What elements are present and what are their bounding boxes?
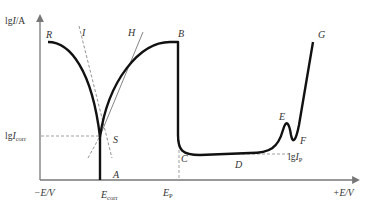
tangent-H-dashed xyxy=(88,136,100,158)
point-I: I xyxy=(81,27,86,38)
cathodic-curve xyxy=(48,42,100,137)
point-S: S xyxy=(113,134,118,145)
tangent-I xyxy=(79,26,112,158)
point-G: G xyxy=(318,29,325,40)
point-H: H xyxy=(127,27,136,38)
x-axis-pos-label: +E/V xyxy=(333,188,355,198)
point-F: F xyxy=(299,135,307,146)
y-axis-label: lgI/A xyxy=(5,15,25,26)
Ecorr-tick-label: Ecorr xyxy=(100,189,118,201)
point-D: D xyxy=(234,159,243,170)
Ep-tick-label: EP xyxy=(162,187,173,199)
lgIp-label: lgIP xyxy=(288,151,303,163)
polarization-diagram: lgI/A R I H B S A C D E F G lgIcorr lgIP… xyxy=(0,0,374,210)
x-axis-neg-label: −E/V xyxy=(34,188,56,198)
point-C: C xyxy=(181,153,188,164)
point-A: A xyxy=(112,169,120,180)
point-B: B xyxy=(178,28,184,39)
tangent-H xyxy=(100,32,143,136)
point-E: E xyxy=(278,111,285,122)
lgIcorr-label: lgIcorr xyxy=(5,130,27,142)
point-R: R xyxy=(45,29,52,40)
